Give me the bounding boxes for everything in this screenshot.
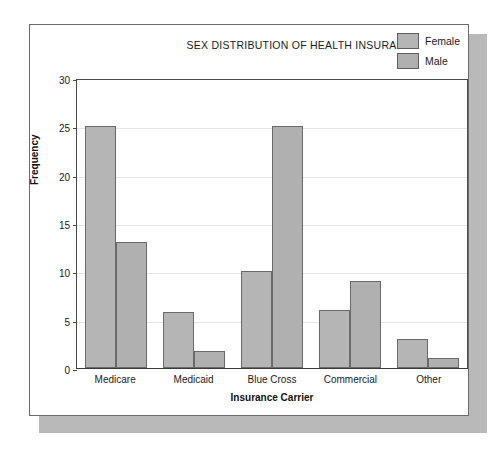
x-axis-title: Insurance Carrier (76, 392, 468, 403)
y-tick-label: 15 (59, 220, 70, 231)
bars-layer (77, 80, 467, 368)
legend-item-female[interactable]: Female (397, 33, 460, 49)
bar-male-commercial[interactable] (350, 281, 381, 368)
x-axis-tick-labels: MedicareMedicaidBlue CrossCommercialOthe… (76, 374, 468, 388)
y-axis-title: Frequency (29, 134, 40, 185)
legend-item-male[interactable]: Male (397, 53, 460, 69)
y-tick-label: 30 (59, 75, 70, 86)
legend-swatch-female-icon (397, 33, 419, 49)
y-tick-label: 5 (64, 316, 70, 327)
y-tick-mark (73, 370, 77, 371)
y-tick-label: 10 (59, 268, 70, 279)
bar-male-blue-cross[interactable] (272, 126, 303, 368)
x-tick-label-commercial: Commercial (311, 374, 389, 388)
legend-swatch-male-icon (397, 53, 419, 69)
bar-group-commercial (319, 80, 381, 368)
bar-female-blue-cross[interactable] (241, 271, 272, 368)
legend-label-male: Male (425, 55, 448, 67)
bar-male-other[interactable] (428, 358, 459, 368)
bar-group-other (397, 80, 459, 368)
chart-figure: SEX DISTRIBUTION OF HEALTH INSURANCE Fem… (29, 24, 469, 416)
x-tick-label-other: Other (390, 374, 468, 388)
bar-female-other[interactable] (397, 339, 428, 368)
bar-group-medicare (85, 80, 147, 368)
bar-male-medicare[interactable] (116, 242, 147, 368)
chart-legend: Female Male (397, 33, 460, 73)
x-tick-label-medicaid: Medicaid (155, 374, 233, 388)
y-tick-label: 20 (59, 171, 70, 182)
bar-group-medicaid (163, 80, 225, 368)
bar-group-blue-cross (241, 80, 303, 368)
y-tick-label: 0 (64, 365, 70, 376)
bar-female-commercial[interactable] (319, 310, 350, 368)
plot-area: 051015202530 (76, 79, 468, 369)
y-tick-label: 25 (59, 123, 70, 134)
bar-male-medicaid[interactable] (194, 351, 225, 368)
legend-label-female: Female (425, 35, 460, 47)
chart-title: SEX DISTRIBUTION OF HEALTH INSURANCE (178, 39, 428, 51)
x-tick-label-medicare: Medicare (76, 374, 154, 388)
x-tick-label-blue-cross: Blue Cross (233, 374, 311, 388)
bar-female-medicaid[interactable] (163, 312, 194, 368)
screenshot-canvas: SEX DISTRIBUTION OF HEALTH INSURANCE Fem… (0, 0, 496, 452)
bar-female-medicare[interactable] (85, 126, 116, 368)
